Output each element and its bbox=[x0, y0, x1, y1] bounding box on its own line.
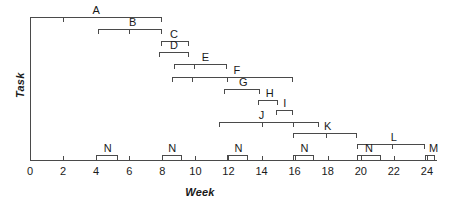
gantt-bar-label-n: N bbox=[162, 143, 182, 154]
gantt-bar-k bbox=[293, 133, 358, 138]
x-axis-tick bbox=[328, 156, 329, 160]
x-axis-tick-label: 18 bbox=[316, 166, 340, 177]
gantt-bar-tick bbox=[194, 65, 195, 69]
x-axis-tick-label: 8 bbox=[150, 166, 174, 177]
x-axis-tick-label: 14 bbox=[250, 166, 274, 177]
x-axis-tick-label: 10 bbox=[183, 166, 207, 177]
gantt-bar-m bbox=[425, 155, 435, 160]
gantt-bar-tick bbox=[63, 18, 64, 22]
gantt-bar-label-n: N bbox=[98, 143, 118, 154]
gantt-bar-g bbox=[224, 89, 260, 94]
gantt-bar-label-n: N bbox=[295, 143, 315, 154]
x-axis-tick-label: 6 bbox=[117, 166, 141, 177]
x-axis-tick bbox=[63, 156, 64, 160]
gantt-bar-tick bbox=[293, 123, 294, 127]
gantt-bar-label-d: D bbox=[164, 40, 184, 51]
gantt-bar-n bbox=[96, 155, 118, 160]
gantt-bar-d bbox=[159, 52, 189, 57]
gantt-bar-n bbox=[162, 155, 182, 160]
x-axis-tick-label: 4 bbox=[84, 166, 108, 177]
gantt-bar-e bbox=[174, 64, 227, 69]
x-axis-title: Week bbox=[160, 186, 240, 198]
x-axis-tick bbox=[195, 156, 196, 160]
gantt-bar-tick bbox=[227, 78, 228, 82]
gantt-bar-tick bbox=[262, 123, 263, 127]
gantt-bar-label-b: B bbox=[123, 17, 143, 28]
gantt-bar-label-f: F bbox=[227, 65, 247, 76]
gantt-bar-label-e: E bbox=[195, 52, 215, 63]
gantt-bar-label-l: L bbox=[384, 132, 404, 143]
gantt-bar-label-a: A bbox=[86, 5, 106, 16]
gantt-chart: 024681012141618202224 ABCDEFGHIJKLMNNNNN… bbox=[0, 0, 451, 204]
x-axis-line bbox=[30, 160, 437, 161]
x-axis-tick-label: 16 bbox=[283, 166, 307, 177]
gantt-bar-label-n: N bbox=[228, 143, 248, 154]
gantt-bar-label-n: N bbox=[359, 143, 379, 154]
x-axis-tick-label: 0 bbox=[18, 166, 42, 177]
x-axis-tick-label: 12 bbox=[216, 166, 240, 177]
gantt-bar-n bbox=[227, 155, 249, 160]
gantt-bar-n bbox=[293, 155, 315, 160]
gantt-bar-b bbox=[98, 29, 163, 34]
x-axis-tick-label: 20 bbox=[349, 166, 373, 177]
gantt-bar-label-j: J bbox=[252, 110, 272, 121]
gantt-bar-tick bbox=[326, 134, 327, 138]
y-axis-title: Task bbox=[14, 73, 26, 98]
x-axis-tick bbox=[262, 156, 263, 160]
x-axis-tick-label: 22 bbox=[382, 166, 406, 177]
gantt-bar-n bbox=[357, 155, 380, 160]
gantt-bar-label-i: I bbox=[275, 98, 295, 109]
x-axis-tick bbox=[394, 156, 395, 160]
x-axis-tick-label: 24 bbox=[415, 166, 439, 177]
gantt-bar-label-m: M bbox=[424, 143, 444, 154]
gantt-bar-j bbox=[219, 122, 320, 127]
x-axis-tick-label: 2 bbox=[51, 166, 75, 177]
x-axis-tick bbox=[129, 156, 130, 160]
gantt-bar-tick bbox=[129, 30, 130, 34]
gantt-bar-label-k: K bbox=[318, 121, 338, 132]
y-axis-line bbox=[30, 17, 31, 160]
gantt-bar-tick bbox=[392, 145, 393, 149]
gantt-bar-i bbox=[276, 110, 293, 115]
gantt-bar-label-g: G bbox=[233, 77, 253, 88]
gantt-bar-tick bbox=[192, 78, 193, 82]
